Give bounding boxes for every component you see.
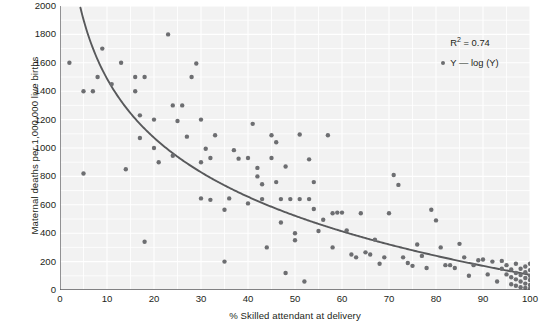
scatter-point [67,61,71,65]
scatter-point [166,32,170,36]
legend-r-squared: R2 = 0.74 [418,36,522,48]
scatter-point [523,276,527,280]
scatter-point [514,277,518,281]
scatter-point [528,278,530,282]
scatter-point [406,261,410,265]
scatter-point [467,274,471,278]
scatter-point [246,156,250,160]
legend: R2 = 0.74 Y — log (Y) [418,36,522,68]
scatter-point [373,237,377,241]
scatter-point [396,183,400,187]
y-tick-label: 600 [4,200,56,210]
scatter-point [410,264,414,268]
scatter-point [138,113,142,117]
scatter-point [110,82,114,86]
scatter-point [222,208,226,212]
y-tick-label: 1200 [4,115,56,125]
scatter-point [283,271,287,275]
scatter-point [457,242,461,246]
scatter-point [152,117,156,121]
scatter-point [302,279,306,283]
scatter-point [298,132,302,136]
x-tick-label: 30 [181,294,221,304]
scatter-point [392,173,396,177]
y-tick-label: 1800 [4,29,56,39]
scatter-point [514,262,518,266]
scatter-point [528,268,530,272]
y-tick-label: 1000 [4,143,56,153]
scatter-point [495,279,499,283]
x-axis-tick-labels: 0102030405060708090100 [60,294,530,308]
scatter-point [81,89,85,93]
scatter-point [269,133,273,137]
scatter-point [298,197,302,201]
scatter-point [133,89,137,93]
scatter-point [349,252,353,256]
scatter-point [509,267,513,271]
y-tick-label: 200 [4,257,56,267]
scatter-point [486,272,490,276]
scatter-point [382,255,386,259]
scatter-point [316,229,320,233]
legend-marker-icon [441,61,445,65]
scatter-point [307,157,311,161]
y-tick-label: 2000 [4,1,56,11]
scatter-point [424,266,428,270]
scatter-point [490,259,494,263]
y-tick-label: 1400 [4,86,56,96]
legend-r-exponent: 2 [457,36,461,43]
scatter-point [255,174,259,178]
scatter-point [359,211,363,215]
legend-r-symbol: R [450,37,457,48]
scatter-point [95,75,99,79]
scatter-point [152,146,156,150]
scatter-point [279,220,283,224]
scatter-point [354,255,358,259]
x-axis-title: % Skilled attendant at delivery [60,310,530,321]
scatter-point [283,164,287,168]
scatter-point [500,259,504,263]
scatter-point [434,218,438,222]
x-tick-label: 100 [510,294,541,304]
y-tick-label: 1600 [4,58,56,68]
scatter-point [453,266,457,270]
maternal-mortality-scatter-chart: Maternal deaths per 1,000,000 live birth… [0,0,541,333]
scatter-point [171,103,175,107]
scatter-point [443,263,447,267]
scatter-point [476,258,480,262]
scatter-point [133,75,137,79]
scatter-point [514,271,518,275]
scatter-point [91,89,95,93]
scatter-point [504,263,508,267]
scatter-point [260,197,264,201]
scatter-point [180,103,184,107]
scatter-point [504,272,508,276]
scatter-point [199,196,203,200]
scatter-point [420,254,424,258]
x-tick-label: 20 [134,294,174,304]
scatter-point [246,201,250,205]
scatter-point [274,180,278,184]
scatter-point [330,245,334,249]
scatter-point [100,46,104,50]
scatter-point [326,133,330,137]
scatter-point [377,262,381,266]
scatter-point [204,147,208,151]
x-tick-label: 90 [463,294,503,304]
scatter-point [288,197,292,201]
scatter-point [401,255,405,259]
scatter-point [293,231,297,235]
scatter-point [528,262,530,266]
scatter-point [321,218,325,222]
scatter-point [171,154,175,158]
y-tick-label: 400 [4,228,56,238]
scatter-point [523,270,527,274]
scatter-point [138,136,142,140]
scatter-point [199,160,203,164]
scatter-point [312,180,316,184]
scatter-point [232,148,236,152]
legend-series-label: Y — log (Y) [450,57,498,68]
scatter-point [518,267,522,271]
legend-r-value: = 0.74 [463,37,489,48]
x-tick-label: 50 [275,294,315,304]
